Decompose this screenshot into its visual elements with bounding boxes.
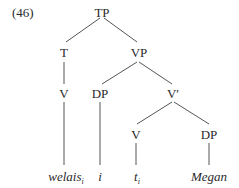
node-v-upper: V: [59, 87, 68, 100]
leaf-word: welais: [48, 169, 81, 184]
coindex: i: [82, 177, 84, 186]
leaf-i: i: [98, 170, 102, 183]
leaf-megan: Megan: [191, 170, 227, 183]
coindex: i: [138, 177, 140, 186]
node-dp-obj: DP: [201, 128, 218, 141]
node-v-lower: V: [131, 128, 140, 141]
node-vp: VP: [131, 46, 148, 59]
node-tp: TP: [94, 6, 109, 19]
node-vbar: V′: [167, 87, 179, 100]
tree-branches: [0, 0, 239, 188]
node-t: T: [60, 46, 68, 59]
leaf-trace: ti: [134, 170, 140, 188]
node-dp-spec: DP: [92, 87, 109, 100]
leaf-welais: welaisi: [48, 170, 83, 188]
